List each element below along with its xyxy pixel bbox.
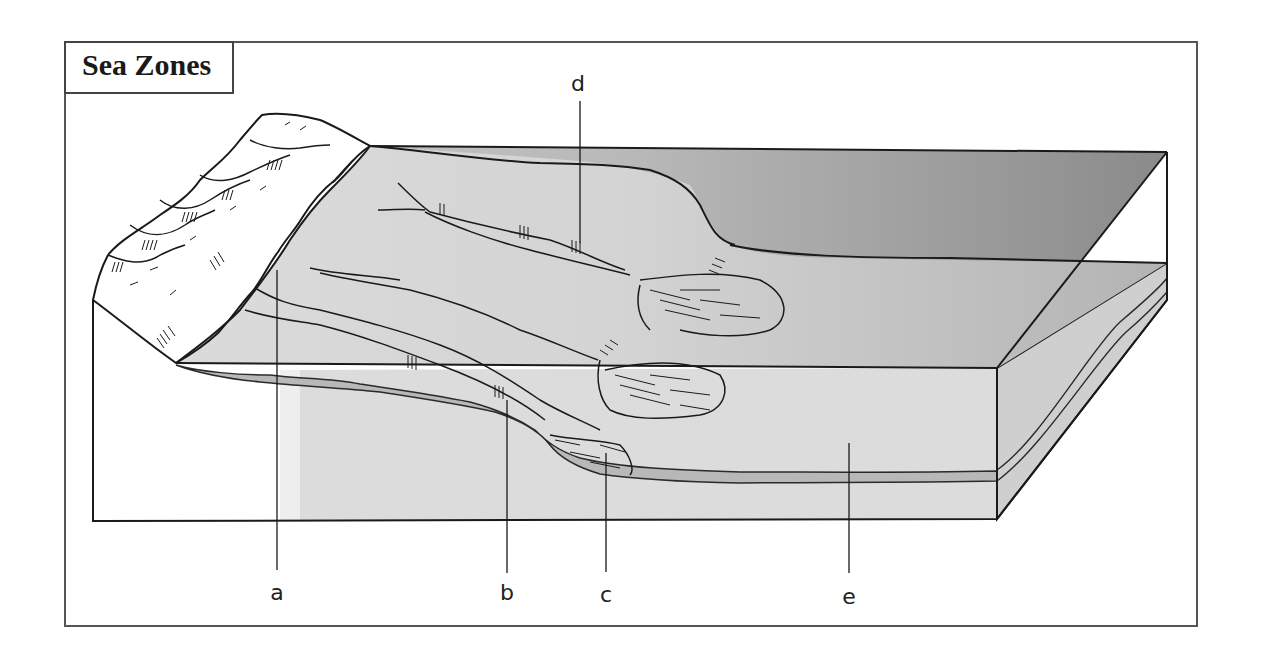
label-e: e — [842, 586, 856, 608]
label-a: a — [270, 582, 283, 604]
diagram-title: Sea Zones — [82, 48, 211, 82]
sea-zones-diagram — [0, 0, 1261, 670]
label-c: c — [600, 584, 612, 606]
label-b: b — [500, 582, 514, 604]
block-front-face — [93, 363, 997, 521]
title-box: Sea Zones — [64, 41, 234, 94]
label-d: d — [571, 73, 585, 95]
